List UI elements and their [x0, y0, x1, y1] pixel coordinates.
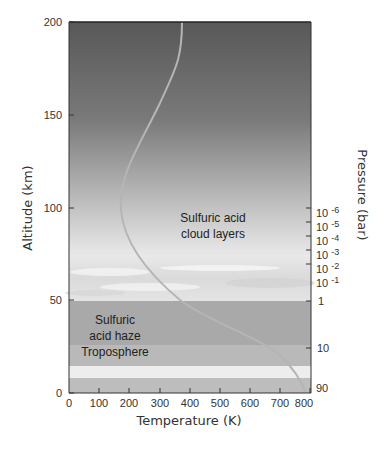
x-tick-400: 400	[181, 397, 199, 409]
x-axis-labels: 0 100 200 300 400 500 600 700 800	[66, 397, 313, 409]
svg-text:Sulfuric: Sulfuric	[95, 313, 135, 327]
y-tick-200: 200	[44, 16, 62, 28]
y-tick-100: 100	[44, 202, 62, 214]
temperature-altitude-chart: 200 150 100 50 0 0 100 200 300 400 500 6…	[0, 0, 382, 451]
y-axis-labels: 200 150 100 50 0	[44, 16, 62, 399]
y-tick-0: 0	[56, 387, 62, 399]
pressure-tick-1e-2: 10 -2	[316, 261, 339, 275]
lower-clear-band	[69, 366, 311, 378]
x-tick-700: 700	[271, 397, 289, 409]
pressure-tick-1e-6: 10 -6	[316, 205, 339, 219]
pressure-tick-1e-3: 10 -3	[316, 247, 339, 261]
pressure-axis-labels: 10 -6 10 -5 10 -4 10 -3 10 -2 10 -1 1 10…	[316, 205, 339, 394]
pressure-tick-1e-5: 10 -5	[316, 219, 339, 233]
svg-text:cloud layers: cloud layers	[181, 227, 245, 241]
pressure-tick-1e-1: 10 -1	[316, 275, 339, 289]
x-tick-0: 0	[66, 397, 72, 409]
pressure-tick-1e-4: 10 -4	[316, 233, 339, 247]
x-tick-500: 500	[211, 397, 229, 409]
y-tick-150: 150	[44, 109, 62, 121]
pressure-tick-10: 10	[317, 342, 329, 354]
x-tick-300: 300	[151, 397, 169, 409]
x-tick-600: 600	[241, 397, 259, 409]
pressure-tick-90: 90	[316, 382, 328, 394]
pressure-tick-1: 1	[318, 295, 324, 307]
x-axis-title: Temperature (K)	[135, 413, 241, 428]
y-tick-50: 50	[50, 294, 62, 306]
y2-axis-title: Pressure (bar)	[355, 149, 370, 240]
y-axis-title: Altitude (km)	[20, 165, 35, 250]
x-tick-200: 200	[120, 397, 138, 409]
svg-text:Sulfuric acid: Sulfuric acid	[180, 211, 245, 225]
svg-text:Troposphere: Troposphere	[81, 345, 149, 359]
x-tick-800: 800	[295, 397, 313, 409]
svg-text:acid haze: acid haze	[89, 329, 141, 343]
x-tick-100: 100	[90, 397, 108, 409]
